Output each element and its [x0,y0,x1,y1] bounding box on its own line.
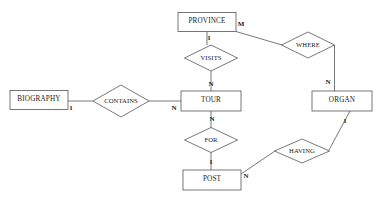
er-diagram-svg [0,0,383,197]
relationship-diamond-visits[interactable] [185,45,238,71]
entity-box-biography[interactable] [10,91,68,110]
relationship-diamond-contains[interactable] [93,85,149,117]
entity-box-province[interactable] [178,13,236,32]
entity-box-tour[interactable] [181,91,241,111]
entity-box-post[interactable] [183,170,241,190]
entity-box-organ[interactable] [312,91,372,111]
relationship-diamond-having[interactable] [275,139,330,163]
connection-line-having-to-organ [329,111,350,150]
relationship-diamond-where[interactable] [282,32,335,58]
relationship-diamond-for[interactable] [185,128,238,153]
er-diagram-canvas: PROVINCEBIOGRAPHYTOURORGANPOSTVISITSWHER… [0,0,383,197]
connection-line-post-to-having [241,151,275,174]
connection-line-province-to-where [236,32,282,46]
